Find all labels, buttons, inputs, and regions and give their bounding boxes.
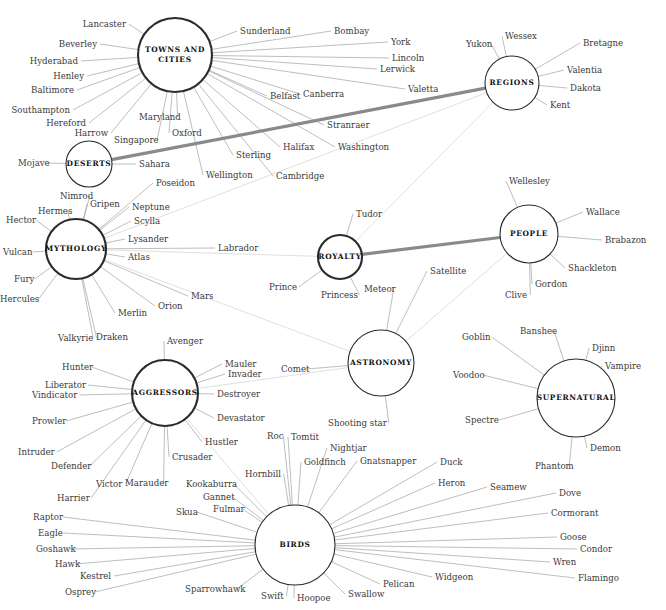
leaf-edge xyxy=(207,73,335,147)
leaf-edge xyxy=(88,385,132,390)
leaf-label: Valetta xyxy=(407,84,438,94)
leaf-edge xyxy=(194,87,233,155)
leaf-label: Skua xyxy=(176,507,198,517)
hub-label-people: PEOPLE xyxy=(510,229,548,238)
leaf-label: Hereford xyxy=(46,118,86,128)
leaf-label: Marauder xyxy=(125,478,169,488)
leaf-edge xyxy=(63,517,256,540)
leaf-edge xyxy=(106,254,125,257)
leaf-edge xyxy=(92,275,115,313)
leaf-label: Sunderland xyxy=(240,26,291,36)
leaf-label: Sterling xyxy=(236,150,272,160)
leaf-label: Shooting star xyxy=(328,418,388,428)
leaf-label: Bombay xyxy=(334,26,369,36)
leaf-label: Hustler xyxy=(205,437,239,447)
hub-node-deserts[interactable]: DESERTS xyxy=(66,141,112,187)
leaf-edge xyxy=(324,573,345,594)
hub-node-supernatural[interactable]: SUPERNATURAL xyxy=(537,359,616,437)
leaf-edge xyxy=(167,426,169,457)
hub-label-supernatural: SUPERNATURAL xyxy=(537,393,616,402)
leaf-edge xyxy=(286,584,288,596)
cross-edge xyxy=(104,260,350,352)
hub-node-birds[interactable]: BIRDS xyxy=(255,505,335,585)
hub-label-birds: BIRDS xyxy=(279,540,310,549)
leaf-label: Hoopoe xyxy=(297,593,331,603)
leaf-label: Widgeon xyxy=(435,572,474,582)
leaf-label: Roc xyxy=(267,431,284,441)
leaf-label: Raptor xyxy=(33,512,64,522)
leaf-label: Defender xyxy=(51,461,92,471)
leaf-label: Kestrel xyxy=(80,571,111,581)
leaf-label: Mojave xyxy=(18,158,50,168)
leaf-label: Prowler xyxy=(32,416,67,426)
leaf-edge xyxy=(492,337,545,375)
hub-node-towns[interactable]: TOWNS ANDCITIES xyxy=(138,18,212,92)
leaf-label: Djinn xyxy=(592,343,616,353)
leaf-label: Kent xyxy=(550,100,571,110)
leaf-edge xyxy=(81,57,138,61)
leaf-label: Cambridge xyxy=(276,171,324,181)
highlight-edge xyxy=(362,238,500,255)
leaf-label: Gordon xyxy=(535,279,568,289)
leaf-edge xyxy=(539,85,567,88)
leaf-edge xyxy=(243,509,262,522)
hub-label-line: ROYALTY xyxy=(318,252,361,261)
leaf-edge xyxy=(83,278,97,338)
leaf-label: Satellite xyxy=(430,266,466,276)
leaf-label: Victor xyxy=(95,479,123,489)
leaf-label: Singapore xyxy=(114,135,159,145)
leaf-label: Orion xyxy=(158,301,183,311)
leaf-label: Henley xyxy=(53,71,84,81)
hub-node-aggressors[interactable]: AGGRESSORS xyxy=(131,360,198,426)
leaf-label: Liberator xyxy=(45,380,87,390)
leaf-label: Vindicator xyxy=(31,390,78,400)
leaf-edge xyxy=(491,44,499,59)
hub-node-regions[interactable]: REGIONS xyxy=(485,56,539,110)
leaf-edge xyxy=(299,270,323,287)
leaf-label: Hunter xyxy=(62,362,94,372)
leaf-edge xyxy=(100,207,129,230)
leaf-label: Crusader xyxy=(172,452,213,462)
leaf-label: Voodoo xyxy=(452,370,485,380)
leaf-label: Wellesley xyxy=(509,176,550,186)
hub-node-astronomy[interactable]: ASTRONOMY xyxy=(348,330,414,396)
leaf-edge xyxy=(396,271,427,333)
leaf-label: Washington xyxy=(338,142,390,152)
leaf-edge xyxy=(586,348,589,360)
leaf-label: Goldfinch xyxy=(304,457,346,467)
leaf-label: Swallow xyxy=(348,589,385,599)
leaf-label: Condor xyxy=(580,544,613,554)
leaf-label: Nightjar xyxy=(330,443,368,453)
hub-label-line: BIRDS xyxy=(279,540,310,549)
leaf-label: Clive xyxy=(505,290,527,300)
leaf-label: Lancaster xyxy=(83,19,127,29)
cross-edge xyxy=(198,368,349,389)
network-svg: TOWNS ANDCITIESREGIONSDESERTSMYTHOLOGYRO… xyxy=(0,0,666,610)
leaf-label: Lincoln xyxy=(392,53,425,63)
leaf-label: Dakota xyxy=(570,83,601,93)
hub-node-people[interactable]: PEOPLE xyxy=(500,205,558,263)
leaf-label: Vulcan xyxy=(2,247,33,257)
leaf-label: Neptune xyxy=(132,202,170,212)
leaf-edge xyxy=(100,44,138,50)
leaf-edge xyxy=(331,562,380,584)
leaf-label: Invader xyxy=(228,369,262,379)
hub-node-mythology[interactable]: MYTHOLOGY xyxy=(45,219,107,279)
hub-label-line: CITIES xyxy=(158,55,191,64)
leaf-edge xyxy=(288,437,292,505)
leaf-label: Halifax xyxy=(283,142,314,152)
leaf-label: Eagle xyxy=(38,528,63,538)
leaf-label: Fury xyxy=(14,274,35,284)
leaf-label: Harrow xyxy=(75,128,109,138)
leaf-edge xyxy=(80,394,133,395)
leaf-label: Wren xyxy=(553,557,577,567)
leaf-edge xyxy=(63,533,255,543)
leaf-label: Draken xyxy=(96,332,128,342)
leaf-edge xyxy=(334,554,432,577)
leaf-label: Sahara xyxy=(139,159,170,169)
leaf-label: Cormorant xyxy=(551,508,599,518)
hub-node-royalty[interactable]: ROYALTY xyxy=(318,235,362,279)
leaf-edge xyxy=(57,409,136,452)
leaf-label: Banshee xyxy=(520,326,557,336)
leaf-label: Seamew xyxy=(490,482,527,492)
